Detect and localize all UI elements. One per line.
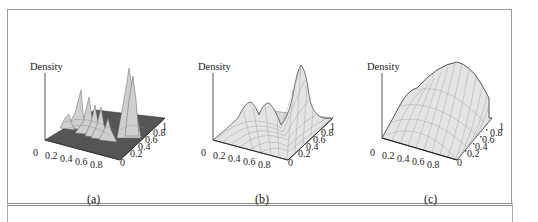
y-tick: 0	[120, 157, 125, 168]
y-tick: 1	[499, 121, 504, 132]
x-tick: 0.6	[243, 156, 256, 167]
surface-plot-b	[193, 10, 361, 202]
panel-c: Density 0 0.2 0.4 0.6 0.8 0 0.2 0.4 0.6 …	[362, 10, 530, 202]
x-tick: 0.8	[258, 159, 271, 170]
x-tick: 0.8	[427, 159, 440, 170]
x-tick: 0.6	[412, 156, 425, 167]
surface-plot-c	[362, 10, 530, 202]
panel-a: Density 0 0.2 0.4 0.6 0.8 0 0.2 0.4 0.6 …	[25, 10, 193, 202]
y-tick: 0	[457, 157, 462, 168]
y-tick: 1	[330, 121, 335, 132]
x-tick: 0.4	[60, 153, 73, 164]
panel-b: Density 0 0.2 0.4 0.6 0.8 0 0.2 0.4 0.6 …	[193, 10, 361, 202]
panel-caption: (b)	[255, 192, 269, 207]
x-tick: 0.4	[228, 153, 241, 164]
x-tick: 0	[370, 147, 375, 158]
x-tick: 0	[33, 147, 38, 158]
z-axis-label: Density	[30, 61, 63, 72]
x-tick: 0.8	[90, 159, 103, 170]
surface-plot-a	[25, 10, 193, 202]
y-tick: 0	[288, 157, 293, 168]
panel-caption: (c)	[424, 192, 437, 207]
y-tick: 1	[162, 121, 167, 132]
lower-frame-edge-right	[512, 206, 513, 222]
lower-frame-edge-left	[7, 206, 8, 222]
x-tick: 0	[201, 147, 206, 158]
x-tick: 0.6	[75, 156, 88, 167]
x-tick: 0.2	[213, 150, 226, 161]
panel-caption: (a)	[87, 192, 100, 207]
x-tick: 0.2	[45, 150, 58, 161]
x-tick: 0.2	[382, 150, 395, 161]
z-axis-label: Density	[198, 61, 231, 72]
z-axis-label: Density	[367, 61, 400, 72]
x-tick: 0.4	[397, 153, 410, 164]
